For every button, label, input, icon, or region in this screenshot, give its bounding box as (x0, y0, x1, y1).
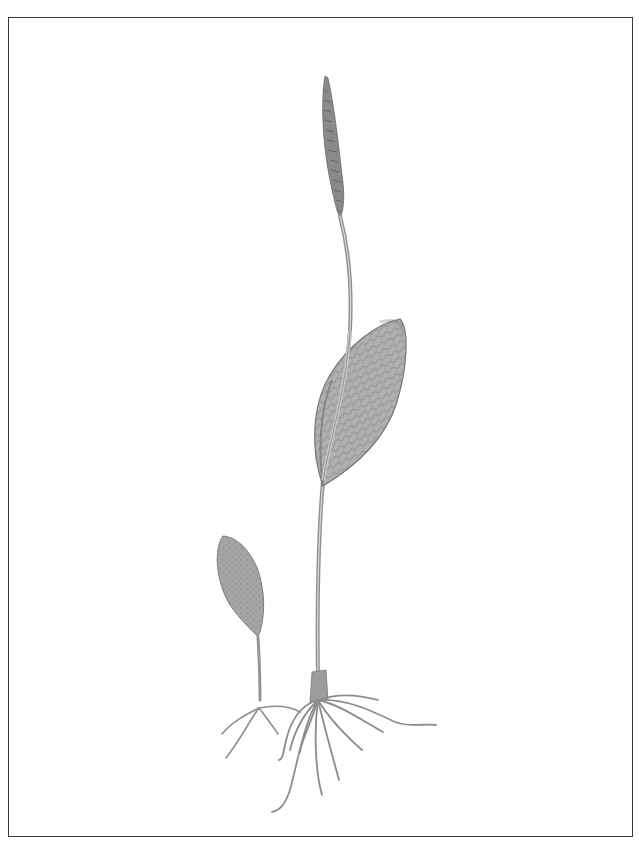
small-plant-leaf (217, 536, 263, 637)
fern-illustration (0, 0, 639, 849)
roots (272, 695, 436, 812)
small-plant-stalk (258, 637, 260, 700)
fertile-spike (323, 76, 344, 218)
small-plant (217, 536, 300, 758)
